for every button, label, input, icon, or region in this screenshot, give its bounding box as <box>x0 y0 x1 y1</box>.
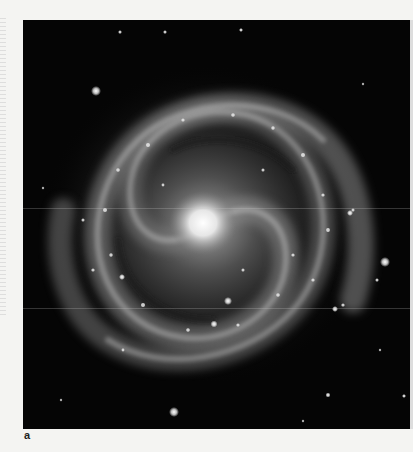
galaxy-core <box>169 191 237 255</box>
galaxy-photograph <box>23 20 410 429</box>
panel-label: a <box>24 429 30 441</box>
galaxy-image <box>23 20 410 429</box>
scan-artifact-line <box>23 308 410 309</box>
scan-artifact-line <box>23 208 410 209</box>
page-margin-dots <box>0 18 6 318</box>
